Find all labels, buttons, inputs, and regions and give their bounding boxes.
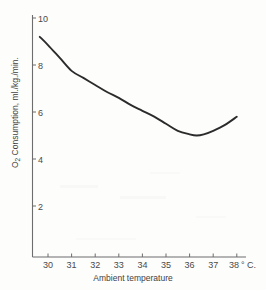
y-tick-label-8: 8 bbox=[38, 61, 43, 71]
y-tick-label-2: 2 bbox=[38, 202, 43, 212]
x-tick-label-35: 35 bbox=[161, 260, 171, 270]
y-axis-title: O2 Consumption, ml./kg./min. bbox=[10, 57, 21, 168]
x-tick-label-33: 33 bbox=[114, 260, 124, 270]
y-tick-label-4: 4 bbox=[38, 155, 43, 165]
x-tick-label-38: 38 bbox=[229, 260, 239, 270]
scan-noise bbox=[60, 172, 226, 240]
data-curve-o2-consumption bbox=[40, 37, 237, 136]
x-tick-label-36: 36 bbox=[185, 260, 195, 270]
x-tick-label-32: 32 bbox=[90, 260, 100, 270]
y-axis-title-group: O2 Consumption, ml./kg./min. bbox=[10, 57, 21, 168]
y-tick-label-10: 10 bbox=[38, 14, 48, 24]
x-tick-label-30: 30 bbox=[43, 260, 53, 270]
x-tick-label-37: 37 bbox=[208, 260, 218, 270]
chart-canvas: 10 8 6 4 2 30 31 32 33 34 35 36 37 38 ° … bbox=[0, 0, 266, 290]
x-axis-title: Ambient temperature bbox=[93, 273, 173, 283]
y-tick-label-6: 6 bbox=[38, 108, 43, 118]
x-tick-label-31: 31 bbox=[67, 260, 77, 270]
x-tick-label-34: 34 bbox=[137, 260, 147, 270]
x-axis-unit-label: ° C. bbox=[241, 260, 256, 270]
figure-container: 10 8 6 4 2 30 31 32 33 34 35 36 37 38 ° … bbox=[0, 0, 266, 290]
y-axis-title-rest: Consumption, ml./kg./min. bbox=[10, 57, 20, 158]
